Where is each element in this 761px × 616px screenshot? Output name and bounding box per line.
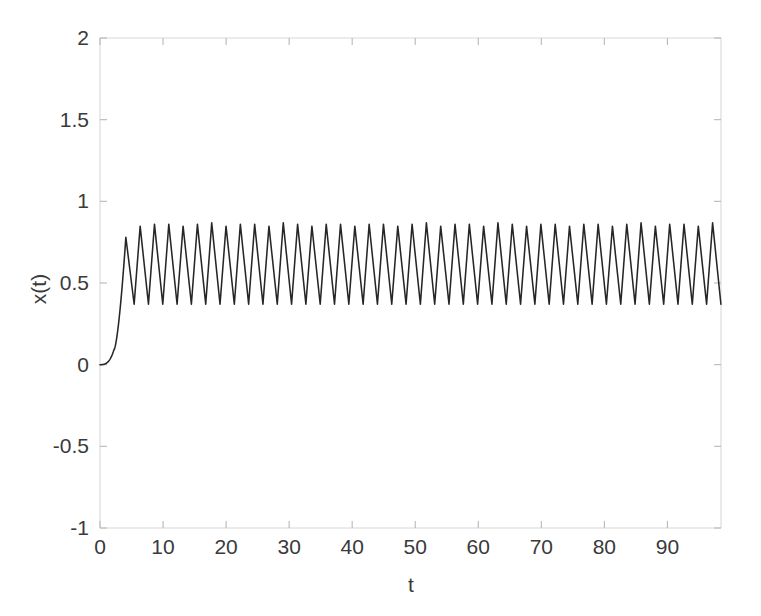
y-axis-tick-labels: -1-0.500.511.52 [53,26,89,539]
x-tick-label: 60 [467,535,490,558]
y-tick-label: -1 [70,516,89,539]
x-axis-title: t [408,573,414,596]
x-axis-ticks [100,38,667,528]
y-tick-label: 1.5 [60,108,89,131]
x-tick-label: 90 [656,535,679,558]
x-tick-label: 80 [593,535,616,558]
series-line-xt [100,223,721,365]
line-chart: 0102030405060708090 -1-0.500.511.52 t x(… [0,0,761,616]
x-tick-label: 0 [94,535,106,558]
figure-canvas: 0102030405060708090 -1-0.500.511.52 t x(… [0,0,761,616]
x-tick-label: 20 [214,535,237,558]
x-tick-label: 50 [404,535,427,558]
y-axis-title: x(t) [27,274,50,304]
x-axis-tick-labels: 0102030405060708090 [94,535,679,558]
y-tick-label: 0 [77,353,89,376]
x-tick-label: 10 [151,535,174,558]
y-tick-label: 2 [77,26,89,49]
y-tick-label: 0.5 [60,271,89,294]
y-tick-label: -0.5 [53,434,89,457]
x-tick-label: 70 [530,535,553,558]
y-tick-label: 1 [77,189,89,212]
x-tick-label: 30 [277,535,300,558]
x-tick-label: 40 [341,535,364,558]
